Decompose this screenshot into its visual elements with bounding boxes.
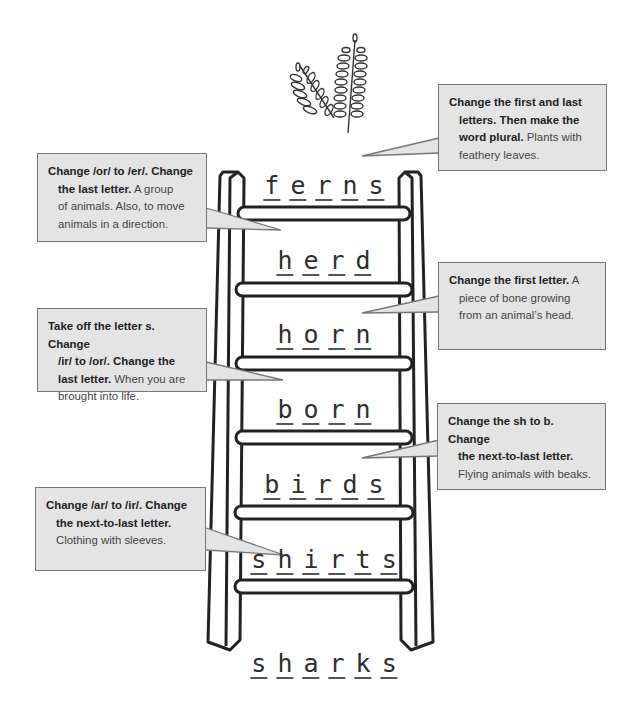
clue-bold: Change /ar/ to /ir/. Change bbox=[46, 499, 187, 511]
clue-callout-horn: Change the first letter. A piece of bone… bbox=[438, 262, 606, 350]
ladder-word-born: b o r n bbox=[276, 397, 371, 425]
letter-blank[interactable]: i bbox=[289, 472, 306, 500]
ladder-word-herd: h e r d bbox=[276, 248, 371, 276]
letter-blank[interactable]: d bbox=[342, 472, 359, 500]
letter-blank[interactable]: i bbox=[302, 547, 319, 575]
letter-blank[interactable]: e bbox=[302, 248, 319, 276]
start-word-sharks: s h a r k s bbox=[250, 651, 397, 679]
clue-text: animals in a direction. bbox=[58, 218, 168, 230]
letter-blank[interactable]: h bbox=[276, 248, 293, 276]
clue-callout-ferns: Change the first and last letters. Then … bbox=[438, 84, 607, 171]
clue-text: from an animal’s head. bbox=[459, 309, 574, 321]
letter-blank[interactable]: s bbox=[368, 472, 385, 500]
letter: k bbox=[355, 651, 372, 679]
letter-blank[interactable]: s bbox=[250, 547, 267, 575]
letter-blank[interactable]: s bbox=[381, 547, 398, 575]
letter-blank[interactable]: f bbox=[263, 173, 280, 201]
clue-bold: letters. Then make the bbox=[459, 114, 579, 126]
ladder-word-horn: h o r n bbox=[276, 322, 371, 350]
letter-blank[interactable]: r bbox=[329, 547, 346, 575]
clue-callout-born: Take off the letter s. Change /ir/ to /o… bbox=[37, 308, 207, 392]
clue-bold: Change the first letter. bbox=[449, 274, 569, 286]
letter-blank[interactable]: r bbox=[329, 322, 346, 350]
clue-callout-herd: Change /or/ to /er/. Change the last let… bbox=[37, 153, 207, 242]
clue-bold: the next-to-last letter. bbox=[458, 450, 573, 462]
letter-blank[interactable]: d bbox=[355, 248, 372, 276]
clue-bold: Change the sh to b. Change bbox=[448, 415, 554, 445]
clue-text: Clothing with sleeves. bbox=[56, 534, 166, 546]
ladder-left-rail bbox=[208, 172, 244, 650]
clue-text: piece of bone growing bbox=[459, 292, 570, 304]
letter: h bbox=[276, 651, 293, 679]
letter-blank[interactable]: o bbox=[302, 322, 319, 350]
clue-text: brought into life. bbox=[58, 390, 139, 402]
clue-callout-shirts: Change /ar/ to /ir/. Change the next-to-… bbox=[35, 487, 206, 571]
letter-blank[interactable]: n bbox=[355, 397, 372, 425]
letter-blank[interactable]: s bbox=[368, 173, 385, 201]
clue-bold: last letter. bbox=[58, 373, 111, 385]
clue-bold: Take off the letter s. Change bbox=[48, 320, 155, 350]
ladder-word-birds: b i r d s bbox=[263, 472, 384, 500]
clue-bold: the next-to-last letter. bbox=[56, 517, 171, 529]
letter: s bbox=[381, 651, 398, 679]
clue-text: feathery leaves. bbox=[459, 149, 539, 161]
clue-text: Plants with bbox=[524, 131, 582, 143]
letter-blank[interactable]: r bbox=[329, 248, 346, 276]
clue-bold: Change the first and last bbox=[449, 96, 582, 108]
ladder-right-rail bbox=[399, 172, 433, 650]
clue-text: Flying animals with beaks. bbox=[458, 468, 591, 480]
fern-leaves-icon bbox=[289, 34, 367, 133]
clue-text: A bbox=[569, 274, 579, 286]
letter-blank[interactable]: n bbox=[342, 173, 359, 201]
letter-blank[interactable]: n bbox=[355, 322, 372, 350]
clue-callout-birds: Change the sh to b. Change the next-to-l… bbox=[437, 403, 606, 490]
letter-blank[interactable]: r bbox=[315, 173, 332, 201]
clue-bold: /ir/ to /or/. Change the bbox=[58, 355, 175, 367]
letter-blank[interactable]: r bbox=[329, 397, 346, 425]
ladder-word-shirts: s h i r t s bbox=[250, 547, 397, 575]
clue-bold: the last letter. bbox=[58, 183, 131, 195]
clue-bold: word plural. bbox=[459, 131, 524, 143]
letter: a bbox=[302, 651, 319, 679]
letter-blank[interactable]: t bbox=[355, 547, 372, 575]
clue-bold: Change /or/ to /er/. Change bbox=[48, 165, 193, 177]
clue-text: of animals. Also, to move bbox=[58, 200, 185, 212]
letter-blank[interactable]: h bbox=[276, 547, 293, 575]
letter: r bbox=[329, 651, 346, 679]
letter-blank[interactable]: e bbox=[289, 173, 306, 201]
letter-blank[interactable]: b bbox=[276, 397, 293, 425]
letter-blank[interactable]: r bbox=[315, 472, 332, 500]
letter-blank[interactable]: h bbox=[276, 322, 293, 350]
clue-text: When you are bbox=[111, 373, 185, 385]
ladder-word-ferns: f e r n s bbox=[263, 173, 384, 201]
letter-blank[interactable]: o bbox=[302, 397, 319, 425]
letter-blank[interactable]: b bbox=[263, 472, 280, 500]
clue-text: A group bbox=[131, 183, 173, 195]
letter: s bbox=[250, 651, 267, 679]
